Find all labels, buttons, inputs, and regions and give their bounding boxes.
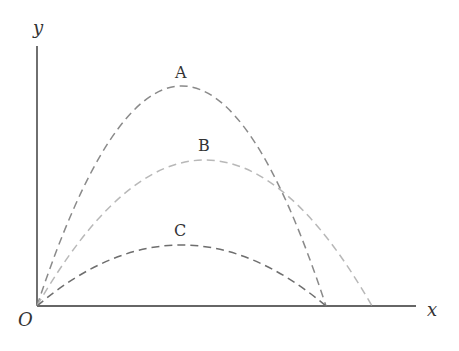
x-axis-label: x [427,299,437,320]
projectile-diagram: y O x A B C [0,0,459,351]
trajectory-c [37,245,326,306]
trajectory-b [37,160,372,306]
y-axis-label: y [32,17,44,38]
curve-b-label: B [198,136,210,155]
curve-c-label: C [174,221,186,240]
origin-label: O [18,309,33,330]
curve-a-label: A [174,63,187,82]
trajectory-a [37,86,326,306]
